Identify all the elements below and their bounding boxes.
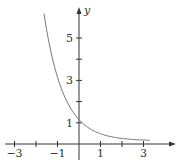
y-tick-label-3: 3 xyxy=(66,74,73,87)
y-axis-label: y xyxy=(83,4,91,17)
x-tick-label-1: 1 xyxy=(97,147,104,160)
chart: −3 −1 1 3 1 3 5 y xyxy=(0,0,179,162)
x-tick-label-neg3: −3 xyxy=(6,147,22,160)
x-tick-label-3: 3 xyxy=(140,147,147,160)
exponential-curve xyxy=(44,14,150,141)
y-axis-arrow-icon xyxy=(77,7,82,14)
x-axis-arrow-icon xyxy=(169,142,176,147)
y-tick-label-1: 1 xyxy=(66,117,73,130)
y-tick-label-5: 5 xyxy=(66,32,73,45)
x-tick-label-neg1: −1 xyxy=(49,147,65,160)
